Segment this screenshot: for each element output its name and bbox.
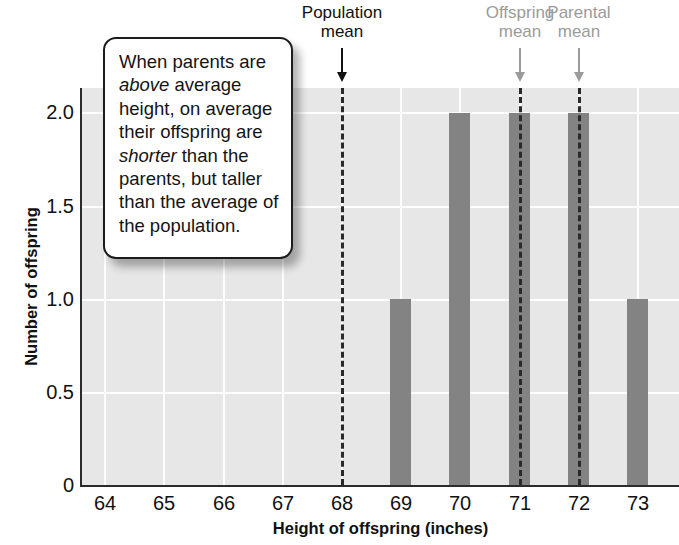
population-mean-line (341, 88, 344, 485)
parental-mean-line (578, 88, 581, 485)
parental-mean-label-line1: Parental (547, 3, 610, 22)
bar-70 (449, 113, 470, 485)
x-tick-71: 71 (490, 492, 550, 515)
y-tick-0: 0 (6, 474, 74, 497)
x-axis-line (80, 485, 679, 487)
x-tick-69: 69 (371, 492, 431, 515)
offspring-mean-arrow-shaft (519, 48, 522, 74)
callout-text: When parents are above average height, o… (119, 50, 283, 237)
parental-mean-arrow-head (574, 72, 584, 82)
offspring-mean-line (519, 88, 522, 485)
y-tick-2-0: 2.0 (6, 101, 74, 124)
offspring-mean-arrow-head (515, 72, 525, 82)
bar-73 (627, 299, 648, 485)
population-mean-arrow-shaft (341, 48, 344, 74)
population-mean-arrow-head (337, 72, 347, 82)
population-mean-label: Population mean (267, 3, 417, 41)
explanatory-callout-box: When parents are above average height, o… (103, 37, 293, 259)
y-axis-title: Number of offspring (22, 157, 41, 417)
bar-69 (390, 299, 411, 485)
y-axis-line (80, 88, 82, 487)
x-tick-70: 70 (430, 492, 490, 515)
parental-mean-label-line2: mean (558, 22, 601, 41)
x-axis-title: Height of offspring (inches) (82, 519, 679, 538)
x-tick-67: 67 (253, 492, 313, 515)
x-tick-68: 68 (312, 492, 372, 515)
population-mean-label-line1: Population (302, 3, 382, 22)
x-tick-65: 65 (134, 492, 194, 515)
callout-emphasis-shorter: shorter (119, 145, 177, 166)
height-regression-histogram-figure: 2.0 1.5 1.0 0.5 0 64 65 66 67 68 69 70 7… (0, 0, 679, 545)
x-tick-73: 73 (608, 492, 668, 515)
horizontal-gridline-0-5 (82, 392, 679, 394)
callout-emphasis-above: above (119, 74, 169, 95)
population-mean-label-line2: mean (321, 22, 364, 41)
x-tick-64: 64 (75, 492, 135, 515)
x-tick-72: 72 (549, 492, 609, 515)
parental-mean-arrow-shaft (578, 48, 581, 74)
x-tick-66: 66 (194, 492, 254, 515)
callout-text-part1: When parents are (119, 51, 266, 72)
horizontal-gridline-1-0 (82, 299, 679, 301)
parental-mean-label: Parental mean (504, 3, 654, 41)
